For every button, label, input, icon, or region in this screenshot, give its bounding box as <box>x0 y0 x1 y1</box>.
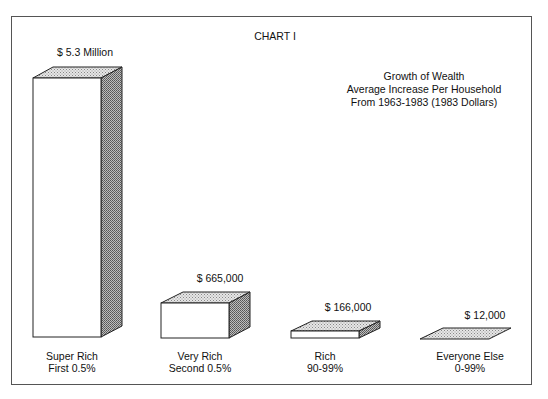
category-range: 0-99% <box>420 362 520 374</box>
chart-subtitle-3: From 1963-1983 (1983 Dollars) <box>314 96 534 108</box>
chart-subtitle-2: Average Increase Per Household <box>314 83 534 95</box>
bar-very-rich <box>161 292 250 338</box>
category-name: Very Rich <box>155 350 245 362</box>
category-label-rich: Rich 90-99% <box>280 350 370 374</box>
category-label-everyone-else: Everyone Else 0-99% <box>420 350 520 374</box>
category-label-super-rich: Super Rich First 0.5% <box>27 350 117 374</box>
category-range: 90-99% <box>280 362 370 374</box>
category-name: Super Rich <box>27 350 117 362</box>
chart-title: CHART I <box>230 30 320 42</box>
category-name: Rich <box>280 350 370 362</box>
category-label-very-rich: Very Rich Second 0.5% <box>155 350 245 374</box>
bar-chart-graphic <box>0 0 548 399</box>
value-label-everyone-else: $ 12,000 <box>445 309 525 321</box>
value-label-super-rich: $ 5.3 Million <box>40 46 130 58</box>
chart-subtitle-1: Growth of Wealth <box>314 70 534 82</box>
bar-super-rich <box>33 67 122 337</box>
category-range: First 0.5% <box>27 362 117 374</box>
category-name: Everyone Else <box>420 350 520 362</box>
category-range: Second 0.5% <box>155 362 245 374</box>
value-label-rich: $ 166,000 <box>308 301 388 313</box>
value-label-very-rich: $ 665,000 <box>180 272 260 284</box>
bar-everyone-else <box>420 328 511 339</box>
bar-rich <box>291 321 380 338</box>
